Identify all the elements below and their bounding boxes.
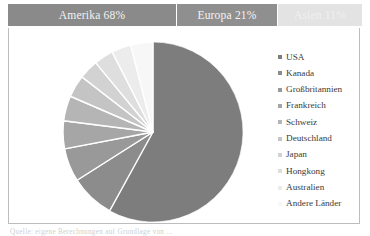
legend-item: Andere Länder xyxy=(278,196,366,212)
legend-swatch-icon xyxy=(278,88,282,92)
pie-chart-svg xyxy=(62,41,244,223)
pie-slice-group xyxy=(63,42,243,222)
legend-swatch-icon xyxy=(278,202,282,206)
legend-item-label: Andere Länder xyxy=(286,199,341,208)
region-band-asien-label: Asien 11% xyxy=(294,9,346,21)
legend-item-label: USA xyxy=(286,53,304,62)
legend-swatch-icon xyxy=(278,186,282,190)
chart-page: Amerika 68% Europa 21% Asien 11% USA Kan… xyxy=(0,0,370,236)
legend-swatch-icon xyxy=(278,169,282,173)
region-band-amerika: Amerika 68% xyxy=(8,4,177,26)
legend-item: Kanada xyxy=(278,65,366,81)
legend-item: Japan xyxy=(278,147,366,163)
pie-chart xyxy=(62,41,244,223)
legend-item-label: Kanada xyxy=(286,69,314,78)
legend-item: Australien xyxy=(278,179,366,195)
region-band-amerika-label: Amerika 68% xyxy=(59,9,125,21)
legend-swatch-icon xyxy=(278,71,282,75)
legend-item: Deutschland xyxy=(278,130,366,146)
legend-item-label: Schweiz xyxy=(286,118,317,127)
legend-swatch-icon xyxy=(278,137,282,141)
legend-item: Schweiz xyxy=(278,114,366,130)
legend-item-label: Deutschland xyxy=(286,134,332,143)
legend-item-label: Japan xyxy=(286,150,307,159)
chart-legend: USA Kanada Großbritannien Frankreich Sch… xyxy=(278,49,366,212)
region-band-europa: Europa 21% xyxy=(177,4,278,26)
legend-item: Frankreich xyxy=(278,98,366,114)
region-band-header: Amerika 68% Europa 21% Asien 11% xyxy=(8,4,362,26)
legend-swatch-icon xyxy=(278,120,282,124)
legend-item-label: Frankreich xyxy=(286,101,326,110)
region-band-asien: Asien 11% xyxy=(278,4,362,26)
legend-swatch-icon xyxy=(278,104,282,108)
legend-item: USA xyxy=(278,49,366,65)
region-band-europa-label: Europa 21% xyxy=(197,9,256,21)
legend-item-label: Großbritannien xyxy=(286,85,342,94)
legend-item: Hongkong xyxy=(278,163,366,179)
legend-item-label: Hongkong xyxy=(286,167,325,176)
legend-swatch-icon xyxy=(278,55,282,59)
legend-swatch-icon xyxy=(278,153,282,157)
source-note: Quelle: eigene Berechnungen auf Grundlag… xyxy=(10,228,360,236)
legend-item: Großbritannien xyxy=(278,82,366,98)
legend-item-label: Australien xyxy=(286,183,324,192)
